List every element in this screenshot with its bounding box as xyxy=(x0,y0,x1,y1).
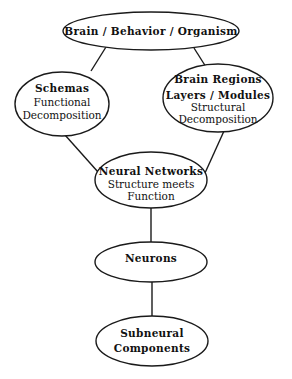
node-subneural-components: Subneural Components xyxy=(96,316,208,366)
edge-schemas-to-neural-networks xyxy=(65,135,98,172)
node-label: Brain / Behavior / Organism xyxy=(64,25,237,37)
edge-brain-regions-to-neural-networks xyxy=(205,131,224,173)
node-schemas: Schemas Functional Decomposition xyxy=(15,72,109,136)
edge-brain-behavior-to-brain-regions xyxy=(194,48,206,67)
node-title: Subneural xyxy=(120,327,184,339)
node-neurons: Neurons xyxy=(95,242,207,282)
node-subtitle: Decomposition xyxy=(178,113,257,125)
node-subtitle: Function xyxy=(127,190,175,202)
node-title: Brain Regions xyxy=(174,73,262,85)
node-subtitle: Structure meets xyxy=(108,178,195,190)
node-brain-regions: Brain Regions Layers / Modules Structura… xyxy=(163,64,273,132)
levels-of-analysis-diagram: Brain / Behavior / Organism Schemas Func… xyxy=(0,0,292,379)
node-label: Neurons xyxy=(125,252,177,264)
node-neural-networks: Neural Networks Structure meets Function xyxy=(95,152,207,208)
node-ellipse xyxy=(96,316,208,366)
edge-brain-behavior-to-schemas xyxy=(91,47,106,71)
node-title: Components xyxy=(114,342,191,354)
node-title: Neural Networks xyxy=(99,165,203,177)
node-subtitle: Structural xyxy=(191,101,246,113)
node-subtitle: Decomposition xyxy=(22,109,101,121)
node-subtitle: Functional xyxy=(34,96,92,108)
node-brain-behavior-organism: Brain / Behavior / Organism xyxy=(63,12,239,50)
node-title: Schemas xyxy=(35,82,89,94)
node-title: Layers / Modules xyxy=(166,89,271,101)
